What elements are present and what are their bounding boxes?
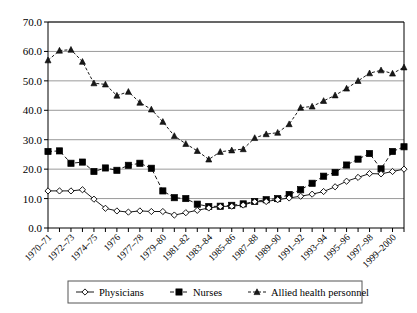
data-point-triangle-icon: [217, 149, 223, 155]
data-point-filled-square-icon: [171, 195, 177, 201]
data-point-filled-square-icon: [298, 187, 304, 193]
data-point-open-diamond-icon: [148, 208, 154, 214]
y-axis-tick-label: 50.0: [23, 75, 43, 87]
data-point-filled-square-icon: [366, 150, 372, 156]
data-point-filled-square-icon: [68, 160, 74, 166]
data-point-triangle-icon: [206, 156, 212, 162]
data-point-open-diamond-icon: [321, 188, 327, 194]
y-axis-tick-label: 40.0: [23, 104, 43, 116]
data-point-open-diamond-icon: [401, 166, 407, 172]
y-axis-tick-label: 0.0: [28, 222, 42, 234]
data-point-open-diamond-icon: [171, 212, 177, 218]
legend-label: Allied health personnel: [271, 287, 369, 298]
y-axis-tick-label: 10.0: [23, 193, 43, 205]
data-point-triangle-icon: [332, 92, 338, 98]
data-point-filled-square-icon: [355, 156, 361, 162]
chart-container: 0.010.020.030.040.050.060.070.0 1970–711…: [0, 0, 417, 313]
data-point-filled-square-icon: [176, 289, 182, 295]
series-allied-health-personnel: [45, 46, 407, 162]
data-point-triangle-icon: [401, 64, 407, 70]
line-chart: 0.010.020.030.040.050.060.070.0 1970–711…: [0, 0, 417, 313]
plot-frame: [48, 22, 404, 228]
data-point-open-diamond-icon: [194, 207, 200, 213]
data-point-open-diamond-icon: [343, 178, 349, 184]
data-point-triangle-icon: [275, 129, 281, 135]
data-point-open-diamond-icon: [355, 174, 361, 180]
data-point-triangle-icon: [148, 106, 154, 112]
gridlines: [44, 22, 404, 228]
data-point-triangle-icon: [171, 133, 177, 139]
data-point-filled-square-icon: [91, 168, 97, 174]
y-axis-tick-label: 60.0: [23, 45, 43, 57]
x-axis-tick-label: 1976: [102, 232, 123, 253]
series-nurses: [45, 144, 407, 210]
data-point-triangle-icon: [183, 141, 189, 147]
data-point-filled-square-icon: [343, 162, 349, 168]
legend-label: Physicians: [99, 287, 144, 298]
x-axis-tick-labels: 1970–711972–731974–7519761977–781979–801…: [23, 232, 398, 269]
data-point-filled-square-icon: [160, 188, 166, 194]
data-point-open-diamond-icon: [183, 210, 189, 216]
data-point-filled-square-icon: [114, 167, 120, 173]
data-point-triangle-icon: [309, 103, 315, 109]
x-axis-ticks: [48, 228, 404, 232]
data-point-filled-square-icon: [332, 169, 338, 175]
y-axis-tick-label: 20.0: [23, 163, 43, 175]
data-point-open-diamond-icon: [332, 184, 338, 190]
series-line: [48, 147, 404, 207]
data-point-filled-square-icon: [45, 148, 51, 154]
data-point-triangle-icon: [252, 135, 258, 141]
data-point-triangle-icon: [321, 98, 327, 104]
data-point-open-diamond-icon: [309, 191, 315, 197]
data-point-filled-square-icon: [102, 165, 108, 171]
data-point-open-diamond-icon: [366, 170, 372, 176]
data-point-filled-square-icon: [56, 148, 62, 154]
data-point-open-diamond-icon: [160, 208, 166, 214]
series-line: [48, 169, 404, 215]
data-point-filled-square-icon: [194, 201, 200, 207]
y-axis-tick-label: 30.0: [23, 134, 43, 146]
data-point-filled-square-icon: [321, 173, 327, 179]
chart-legend[interactable]: PhysiciansNursesAllied health personnel: [68, 281, 369, 303]
data-point-filled-square-icon: [183, 195, 189, 201]
data-point-filled-square-icon: [309, 180, 315, 186]
data-point-triangle-icon: [194, 148, 200, 154]
y-axis-tick-labels: 0.010.020.030.040.050.060.070.0: [23, 16, 43, 234]
data-point-triangle-icon: [344, 85, 350, 91]
data-point-open-diamond-icon: [56, 188, 62, 194]
series-line: [48, 50, 404, 160]
data-point-triangle-icon: [367, 70, 373, 76]
data-point-triangle-icon: [390, 70, 396, 76]
data-point-filled-square-icon: [148, 165, 154, 171]
data-point-filled-square-icon: [389, 148, 395, 154]
data-point-open-diamond-icon: [137, 208, 143, 214]
data-point-open-diamond-icon: [45, 188, 51, 194]
data-point-filled-square-icon: [125, 162, 131, 168]
series-physicians: [45, 166, 407, 218]
data-point-open-diamond-icon: [114, 208, 120, 214]
legend-label: Nurses: [193, 287, 222, 298]
data-point-triangle-icon: [125, 89, 131, 95]
data-point-open-diamond-icon: [125, 209, 131, 215]
y-axis-tick-label: 70.0: [23, 16, 43, 28]
data-point-triangle-icon: [68, 46, 74, 52]
data-point-filled-square-icon: [79, 159, 85, 165]
data-point-filled-square-icon: [137, 160, 143, 166]
data-point-triangle-icon: [240, 146, 246, 152]
data-point-filled-square-icon: [401, 144, 407, 150]
data-point-triangle-icon: [45, 57, 51, 63]
data-point-triangle-icon: [378, 67, 384, 73]
data-point-open-diamond-icon: [68, 188, 74, 194]
